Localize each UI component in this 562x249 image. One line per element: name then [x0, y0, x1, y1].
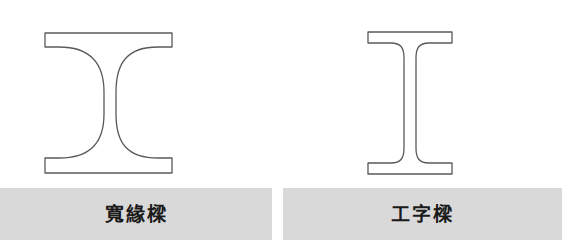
caption-divider [272, 188, 283, 240]
caption-cell-i-beam: 工字樑 [283, 188, 562, 240]
i-beam-outline [368, 32, 452, 174]
bottom-white-strip [0, 240, 562, 249]
diagram-area [0, 0, 562, 188]
caption-cell-wide-flange: 寬緣樑 [0, 188, 272, 240]
wide-flange-beam-outline [45, 33, 172, 173]
caption-label-i-beam: 工字樑 [391, 205, 454, 224]
beam-comparison-figure: 寬緣樑 工字樑 [0, 0, 562, 249]
caption-label-wide-flange: 寬緣樑 [105, 205, 168, 224]
caption-band: 寬緣樑 工字樑 [0, 188, 562, 240]
wide-flange-beam-diagram [0, 0, 562, 188]
